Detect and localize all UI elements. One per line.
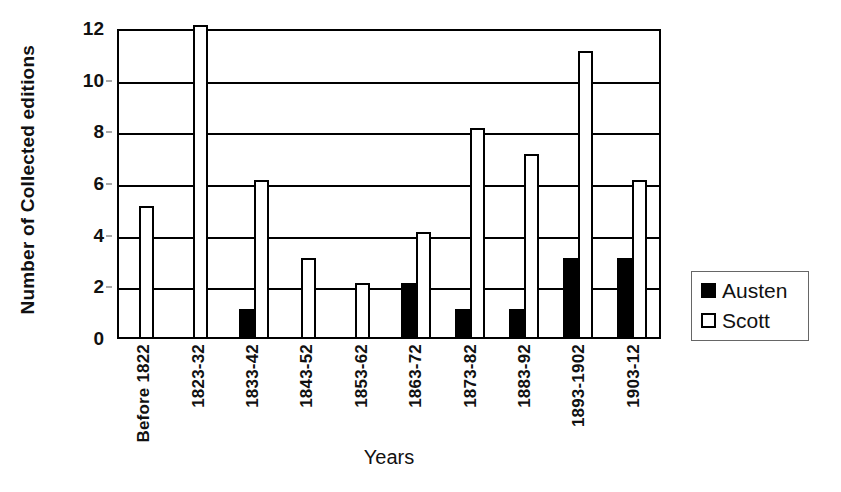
y-tick-mark	[106, 235, 112, 236]
x-tick-label-text: 1863-72	[406, 344, 426, 408]
bar-group	[119, 31, 173, 337]
bar-austen[interactable]	[401, 283, 416, 337]
x-axis-title: Years	[117, 446, 661, 469]
bar-scott[interactable]	[632, 180, 647, 337]
bar-scott[interactable]	[139, 206, 154, 337]
legend-item-label: Austen	[722, 280, 787, 301]
y-tick-mark	[106, 132, 112, 133]
x-tick-label: 1893-1902	[552, 344, 606, 444]
bar-scott[interactable]	[355, 283, 370, 337]
bar-group	[335, 31, 389, 337]
x-tick-label-text: 1833-42	[243, 344, 263, 408]
y-tick-label: 0	[93, 328, 104, 350]
legend-item-scott[interactable]: Scott	[701, 310, 799, 331]
bar-scott[interactable]	[524, 154, 539, 337]
y-tick-mark	[106, 80, 112, 81]
bar-group	[443, 31, 497, 337]
bar-group	[173, 31, 227, 337]
y-tick-mark	[106, 287, 112, 288]
y-tick-label: 6	[93, 173, 104, 195]
x-tick-label-text: 1843-52	[297, 344, 317, 408]
bar-scott[interactable]	[416, 232, 431, 337]
bar-scott[interactable]	[254, 180, 269, 337]
x-tick-label-text: 1903-12	[624, 344, 644, 408]
bar-group	[551, 31, 605, 337]
y-tick-label: 2	[93, 276, 104, 298]
x-tick-label-text: Before 1822	[134, 344, 154, 443]
bar-scott[interactable]	[578, 51, 593, 337]
legend-swatch-icon	[701, 283, 716, 298]
y-tick-label: 10	[83, 70, 104, 92]
x-tick-label: 1833-42	[226, 344, 280, 444]
x-tick-label-text: 1893-1902	[569, 344, 589, 427]
x-tick-label: Before 1822	[117, 344, 171, 444]
y-tick-label: 12	[83, 18, 104, 40]
x-tick-label-text: 1853-62	[352, 344, 372, 408]
x-tick-label-text: 1873-82	[461, 344, 481, 408]
y-axis-title: Number of Collected editions	[6, 10, 50, 350]
y-axis-tick-labels: 024681012	[56, 19, 112, 339]
x-tick-label: 1883-92	[498, 344, 552, 444]
bar-austen[interactable]	[617, 258, 632, 338]
bar-austen[interactable]	[563, 258, 578, 338]
chart-legend: AustenScott	[691, 271, 809, 341]
bar-group	[389, 31, 443, 337]
x-tick-label-text: 1883-92	[515, 344, 535, 408]
bar-austen[interactable]	[455, 309, 470, 337]
legend-item-label: Scott	[722, 310, 770, 331]
bar-austen[interactable]	[509, 309, 524, 337]
bar-group	[497, 31, 551, 337]
bars-layer	[119, 31, 659, 337]
y-tick-label: 4	[93, 225, 104, 247]
x-tick-label: 1853-62	[335, 344, 389, 444]
x-axis-tick-labels: Before 18221823-321833-421843-521853-621…	[117, 344, 661, 444]
bar-scott[interactable]	[301, 258, 316, 338]
y-axis-title-text: Number of Collected editions	[17, 45, 39, 315]
x-tick-label: 1873-82	[443, 344, 497, 444]
x-tick-label: 1903-12	[607, 344, 661, 444]
x-tick-label: 1863-72	[389, 344, 443, 444]
y-tick-mark	[106, 184, 112, 185]
legend-swatch-icon	[701, 313, 716, 328]
plot-area	[117, 29, 661, 339]
x-tick-label-text: 1823-32	[189, 344, 209, 408]
bar-scott[interactable]	[193, 25, 208, 337]
x-tick-label: 1843-52	[280, 344, 334, 444]
bar-scott[interactable]	[470, 128, 485, 337]
bar-group	[227, 31, 281, 337]
bar-group	[605, 31, 659, 337]
bar-group	[281, 31, 335, 337]
y-tick-label: 8	[93, 121, 104, 143]
x-tick-label: 1823-32	[171, 344, 225, 444]
bar-austen[interactable]	[239, 309, 254, 337]
legend-item-austen[interactable]: Austen	[701, 280, 799, 301]
